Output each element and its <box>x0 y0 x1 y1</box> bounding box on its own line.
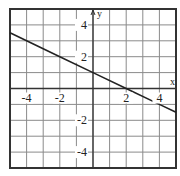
axes <box>10 9 176 168</box>
y-tick-label: -2 <box>77 113 87 127</box>
y-tick-label: 4 <box>81 18 87 32</box>
x-tick-label: -2 <box>55 91 65 105</box>
y-tick-label: 2 <box>81 50 87 64</box>
x-tick-label: 4 <box>156 91 162 105</box>
coordinate-plane: -4-22442-2-4 x y <box>0 0 180 176</box>
x-tick-label: -4 <box>22 91 32 105</box>
y-axis-label: y <box>97 8 102 19</box>
x-axis-label: x <box>170 76 175 87</box>
y-tick-label: -4 <box>77 145 87 159</box>
x-tick-label: 2 <box>123 91 129 105</box>
